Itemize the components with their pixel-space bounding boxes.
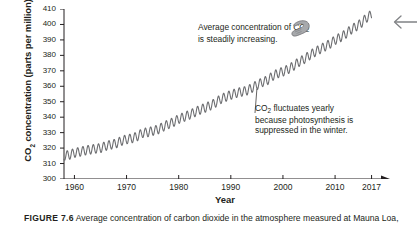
x-axis-title: Year <box>60 194 390 205</box>
x-axis-tick-label: 2017 <box>352 182 392 192</box>
x-axis-arrowhead <box>381 176 390 180</box>
x-axis-tick-label: 2010 <box>315 182 355 192</box>
y-axis-tick-label: 350 <box>34 98 56 106</box>
y-axis-tick-label: 360 <box>34 82 56 90</box>
pointing-hand-icon <box>288 20 314 40</box>
x-axis-tick-label: 2000 <box>263 182 303 192</box>
annotation-seasonal-line3: suppressed in the winter. <box>255 125 348 135</box>
annotation-seasonal-line2: because photosynthesis is <box>255 115 353 125</box>
y-axis-tick-label: 310 <box>34 160 56 168</box>
y-axis-ticks <box>60 9 64 179</box>
x-axis-tick-label: 1990 <box>211 182 251 192</box>
y-axis-tick-label: 390 <box>34 36 56 44</box>
x-axis-tick-label: 1960 <box>54 182 94 192</box>
y-axis-tick-label: 380 <box>34 51 56 59</box>
y-axis-tick-label: 340 <box>34 113 56 121</box>
y-axis-tick-label: 300 <box>34 175 56 183</box>
annotation-seasonal-subscript: 2 <box>268 107 272 114</box>
annotation-seasonal-line1b: fluctuates yearly <box>271 103 334 113</box>
annotation-seasonal: CO2 fluctuates yearly because photosynth… <box>255 103 375 136</box>
y-axis-title-main: CO <box>22 148 33 162</box>
y-axis-tick-label: 330 <box>34 129 56 137</box>
annotation-seasonal-line1: CO <box>255 103 268 113</box>
figure-caption: FIGURE 7.6 Average concentration of carb… <box>24 213 414 225</box>
y-axis-tick-label: 400 <box>34 20 56 28</box>
x-axis-tick-labels: 1960197019801990200020102017 <box>60 182 390 194</box>
annotation-trend-line2: is steadily increasing. <box>198 34 278 44</box>
y-axis-title-rest: concentration (parts per million) <box>22 0 33 144</box>
x-axis-tick-label: 1980 <box>159 182 199 192</box>
y-axis-tick-label: 370 <box>34 67 56 75</box>
x-axis-ticks <box>74 175 371 179</box>
figure-caption-number: FIGURE 7.6 <box>24 213 74 223</box>
left-arrow-icon[interactable] <box>392 14 417 30</box>
figure-container: CO2 concentration (parts per million) 30… <box>0 0 417 225</box>
x-axis-tick-label: 1970 <box>107 182 147 192</box>
y-axis-tick-label: 320 <box>34 144 56 152</box>
figure-caption-text: Average concentration of carbon dioxide … <box>24 213 399 225</box>
y-axis-tick-labels: 300310320330340350360370380390400410 <box>32 9 56 179</box>
y-axis-tick-label: 410 <box>34 5 56 13</box>
